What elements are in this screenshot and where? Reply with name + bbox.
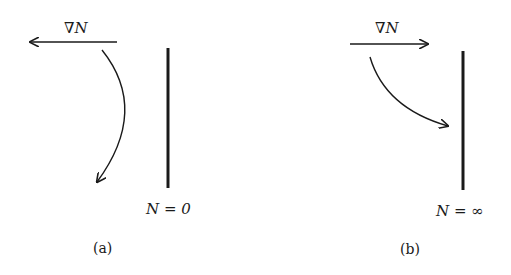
ray-curve-a <box>97 50 125 182</box>
panel-a <box>30 42 168 188</box>
caption-b: (b) <box>400 241 420 257</box>
gradient-label-a: ∇N <box>64 19 88 37</box>
ray-curve-b <box>370 57 448 126</box>
caption-a: (a) <box>93 240 112 256</box>
panel-b <box>350 44 463 190</box>
gradient-label-b: ∇N <box>375 19 399 37</box>
boundary-label-a: N = 0 <box>146 200 191 218</box>
boundary-label-b: N = ∞ <box>436 202 484 220</box>
diagram-canvas <box>0 0 511 275</box>
